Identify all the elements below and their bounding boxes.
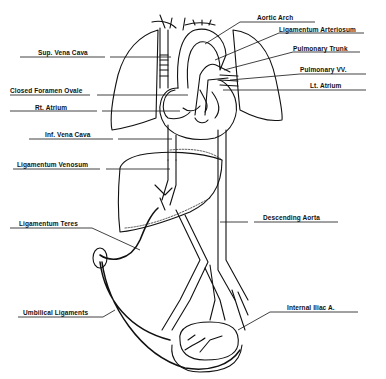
label-descending-aorta: Descending Aorta (263, 214, 320, 221)
label-rt-atrium: Rt. Atrium (35, 104, 67, 111)
label-sup-vena-cava: Sup. Vena Cava (38, 49, 88, 56)
label-lt-atrium: Lt. Atrium (310, 82, 341, 89)
label-closed-foramen-ovale: Closed Foramen Ovale (10, 87, 82, 94)
label-ligamentum-arteriosum: Ligamentum Arteriosum (279, 26, 356, 33)
label-umbilical-ligaments: Umbilical Ligaments (23, 309, 88, 316)
label-aortic-arch: Aortic Arch (257, 14, 293, 21)
label-ligamentum-venosum: Ligamentum Venosum (17, 161, 88, 168)
label-pulmonary-vv: Pulmonary VV. (300, 66, 347, 73)
label-pulmonary-trunk: Pulmonary Trunk (293, 45, 348, 52)
leader-lines (0, 0, 386, 379)
label-ligamentum-teres: Ligamentum Teres (19, 220, 78, 227)
label-internal-iliac-a: Internal Iliac A. (287, 304, 335, 311)
label-inf-vena-cava: Inf. Vena Cava (45, 131, 90, 138)
